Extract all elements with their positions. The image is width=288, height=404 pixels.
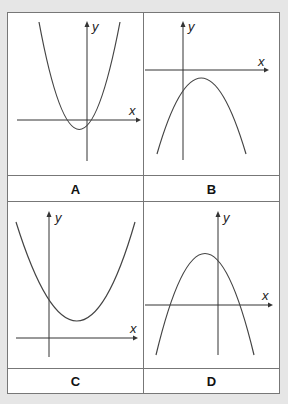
x-axis-arrow-icon: [264, 68, 269, 73]
panel-d: y x D: [144, 202, 279, 393]
x-axis-arrow-icon: [268, 303, 273, 308]
y-axis-label: y: [54, 210, 63, 225]
x-axis-arrow-icon: [133, 336, 138, 341]
y-axis-arrow-icon: [85, 21, 90, 27]
x-axis-label: x: [257, 54, 265, 69]
panel-label: B: [144, 182, 279, 197]
x-axis-label: x: [128, 103, 136, 118]
panel-a: y x A: [8, 13, 143, 201]
y-axis-label: y: [91, 19, 100, 34]
x-axis-label: x: [129, 321, 137, 336]
panel-b: y x B: [144, 13, 279, 201]
graph-a: y x: [8, 13, 143, 175]
x-axis-arrow-icon: [136, 118, 141, 123]
panel-label: A: [8, 182, 143, 197]
y-axis-arrow-icon: [181, 21, 186, 27]
graph-grid: y x A y x B y x C: [7, 12, 280, 394]
parabola-curve: [157, 78, 246, 154]
y-axis-label: y: [222, 210, 231, 225]
x-axis-label: x: [261, 288, 269, 303]
graph-c: y x: [8, 202, 143, 368]
panel-label: C: [8, 374, 143, 389]
y-axis-arrow-icon: [47, 211, 52, 217]
parabola-curve: [156, 254, 254, 356]
graph-d: y x: [144, 202, 279, 368]
y-axis-label: y: [187, 19, 196, 34]
parabola-curve: [39, 22, 120, 130]
graph-b: y x: [144, 13, 279, 175]
panel-label: D: [144, 374, 279, 389]
y-axis-arrow-icon: [216, 211, 221, 217]
parabola-curve: [16, 222, 135, 321]
panel-c: y x C: [8, 202, 143, 393]
